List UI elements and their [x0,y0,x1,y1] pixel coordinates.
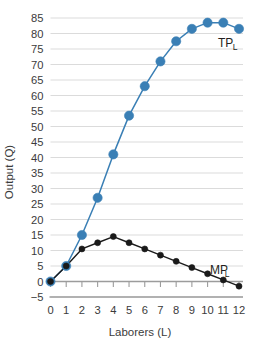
x-tick-label: 9 [189,304,195,316]
data-point-mp-l [79,246,85,252]
x-tick-label: 6 [142,304,148,316]
y-tick-label: 65 [31,74,43,86]
data-point-tp-l [140,82,149,91]
y-tick-label: 50 [31,121,43,133]
chart-figure: −50510152025303540455055606570758085 012… [0,0,257,345]
x-tick-label: 1 [63,304,69,316]
data-point-tp-l [234,24,243,33]
production-function-chart: −50510152025303540455055606570758085 012… [0,0,257,345]
x-tick-label: 3 [95,304,101,316]
data-point-mp-l [110,234,116,240]
data-point-tp-l [187,24,196,33]
x-axis-title: Laborers (L) [109,326,172,338]
data-point-mp-l [173,258,179,264]
y-tick-label: 70 [31,59,43,71]
x-tick-label: 10 [201,304,213,316]
tp-series-label-subscript: L [233,42,238,52]
data-point-mp-l [126,240,132,246]
data-point-tp-l [93,193,102,202]
data-point-tp-l [124,111,133,120]
y-tick-label: 40 [31,152,43,164]
x-tick-label: 5 [126,304,132,316]
y-tick-label: 35 [31,167,43,179]
x-tick-label: 4 [110,304,116,316]
y-tick-label: 25 [31,198,43,210]
data-point-tp-l [203,18,212,27]
y-tick-label: 15 [31,229,43,241]
x-tick-label: 8 [173,304,179,316]
data-point-tp-l [77,230,86,239]
y-tick-label: 80 [31,28,43,40]
x-tick-label: 0 [47,304,53,316]
data-point-tp-l [156,57,165,66]
tp-series-label: TP [218,36,233,50]
y-tick-label: 5 [37,260,43,272]
data-point-tp-l [172,37,181,46]
y-axis-title: Output (Q) [3,145,15,199]
y-tick-label: 55 [31,105,43,117]
mp-series-label-subscript: L [225,269,230,279]
x-tick-label: 12 [233,304,245,316]
y-tick-label: 30 [31,183,43,195]
data-point-mp-l [95,240,101,246]
data-point-mp-l [236,283,242,289]
y-tick-label: 45 [31,136,43,148]
y-tick-label: 10 [31,245,43,257]
y-tick-label: 60 [31,90,43,102]
data-point-mp-l [63,263,69,269]
x-tick-label: 7 [157,304,163,316]
y-tick-label: −5 [31,291,44,303]
data-point-mp-l [48,279,54,285]
y-tick-label: 75 [31,43,43,55]
x-tick-label: 2 [79,304,85,316]
y-tick-label: 20 [31,214,43,226]
data-point-mp-l [157,252,163,258]
y-tick-label: 85 [31,12,43,24]
data-point-tp-l [219,18,228,27]
y-tick-label: 0 [37,276,43,288]
data-point-mp-l [189,265,195,271]
data-point-mp-l [142,246,148,252]
x-tick-label: 11 [217,304,229,316]
data-point-tp-l [109,150,118,159]
